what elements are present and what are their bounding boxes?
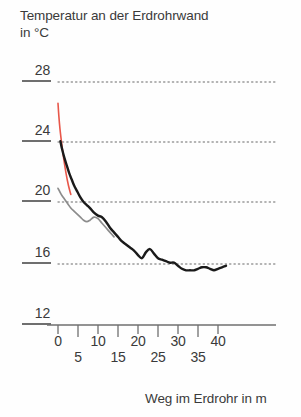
y-tick-rule-12 [22, 323, 51, 325]
series-line-einlasstemperatur [58, 103, 71, 194]
x-tick-label-15: 15 [107, 349, 129, 365]
y-tick-rule-24 [22, 140, 51, 142]
y-tick-label-24: 24 [22, 122, 50, 138]
data-series-layer [58, 103, 226, 270]
x-tick-label-35: 35 [187, 349, 209, 365]
x-tick-label-10: 10 [87, 333, 109, 349]
x-axis-caption: Weg im Erdrohr in m [145, 391, 267, 406]
x-tick-label-40: 40 [207, 333, 229, 349]
y-tick-label-28: 28 [22, 62, 50, 78]
x-tick-label-25: 25 [147, 349, 169, 365]
x-tick-label-20: 20 [127, 333, 149, 349]
chart-page: Temperatur an der Erdrohrwand in °C 28 [0, 0, 301, 417]
x-tick-label-30: 30 [167, 333, 189, 349]
y-tick-rule-28 [22, 80, 51, 82]
gridlines [58, 82, 276, 264]
x-tick-label-0: 0 [47, 333, 69, 349]
y-tick-rule-16 [22, 262, 51, 264]
series-line-rohrwandtemperatur [60, 141, 226, 270]
y-tick-label-20: 20 [22, 182, 50, 198]
y-tick-rule-20 [22, 200, 51, 202]
y-tick-label-16: 16 [22, 244, 50, 260]
x-tick-label-5: 5 [67, 349, 89, 365]
y-tick-label-12: 12 [22, 305, 50, 321]
series-line-erdreichtemperatur [58, 188, 114, 237]
